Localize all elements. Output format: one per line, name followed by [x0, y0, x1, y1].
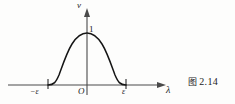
tick-label-negative-epsilon: −ε [30, 88, 39, 96]
x-axis-label: λ [166, 85, 170, 95]
plot-svg [0, 0, 182, 104]
figure-caption: 图2.14 [188, 75, 218, 88]
origin-label: O [78, 87, 85, 96]
peak-value-label: 1 [89, 25, 94, 34]
y-axis-label: ν [77, 1, 81, 10]
tick-label-positive-epsilon: ε [122, 88, 125, 96]
x-axis-arrow [157, 82, 166, 88]
figure-caption-glyph: 图 [188, 75, 197, 88]
figure-caption-number: 2.14 [199, 76, 218, 87]
y-axis-arrow [84, 8, 90, 17]
figure-container: ν λ O −ε ε 1 图2.14 [0, 0, 235, 104]
plot-area [0, 0, 182, 104]
